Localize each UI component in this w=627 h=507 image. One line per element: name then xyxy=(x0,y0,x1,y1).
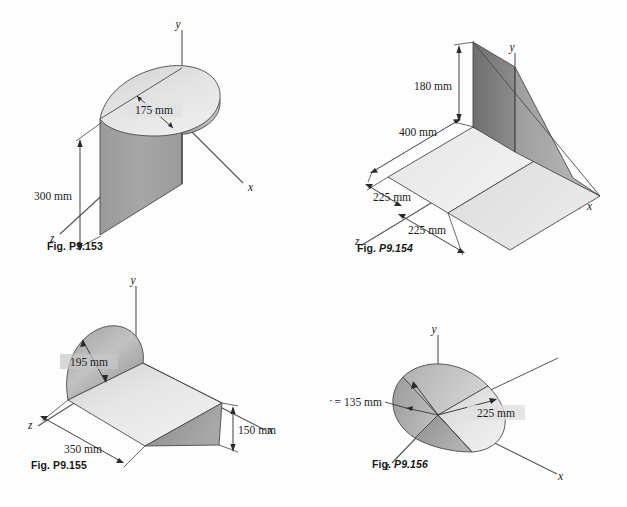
caption-word-153: Fig. xyxy=(47,240,66,252)
caption-word-154: Fig. xyxy=(357,242,376,254)
caption-number-154: P9.154 xyxy=(379,242,413,254)
caption-p9-153: Fig.P9.153 xyxy=(47,240,103,252)
caption-number-156: P9.156 xyxy=(394,458,428,470)
figure-p9-153-drawing: y x z 175 mm xyxy=(0,0,320,255)
caption-number-155: P9.155 xyxy=(53,459,87,471)
dim-225mm-far-label: 225 mm xyxy=(373,191,411,203)
dim-150mm-label: 150 mm xyxy=(238,424,276,436)
caption-word-155: Fig. xyxy=(31,459,50,471)
figure-p9-156-drawing: y x z r = 135 mm xyxy=(330,280,627,507)
y-axis-label: y xyxy=(508,41,515,54)
caption-number-153: P9.153 xyxy=(69,240,103,252)
dim-225mm-near-label: 225 mm xyxy=(408,224,446,236)
dim-r135-label: r = 135 mm xyxy=(330,396,382,408)
figure-p9-155: y x z 195 mm xyxy=(0,262,330,507)
x-axis-label: x xyxy=(557,470,564,482)
caption-word-156: Fig. xyxy=(372,458,391,470)
dim-300mm-group: 300 mm xyxy=(34,123,101,251)
caption-p9-155: Fig.P9.155 xyxy=(31,459,87,471)
figure-p9-156: y x z r = 135 mm xyxy=(330,280,627,507)
dim-300mm-ext-top xyxy=(76,123,101,141)
dim-350mm-ext-end xyxy=(124,446,145,467)
dim-180mm-ext-top xyxy=(454,42,474,45)
dim-195mm-label: 195 mm xyxy=(70,356,108,368)
dim-400mm-label: 400 mm xyxy=(399,126,437,138)
dim-150mm-ext-bottom xyxy=(219,445,238,452)
z-axis-label: z xyxy=(27,419,33,431)
dim-350mm-label: 350 mm xyxy=(64,443,102,455)
y-axis-label: y xyxy=(174,18,181,31)
caption-p9-156: Fig.P9.156 xyxy=(372,458,428,470)
caption-p9-154: Fig.P9.154 xyxy=(357,242,413,254)
dim-r135-value: = 135 mm xyxy=(332,396,382,408)
dim-180mm-group: 180 mm xyxy=(414,42,474,127)
figure-p9-153: y x z 175 mm xyxy=(0,0,320,255)
dim-175mm-label: 175 mm xyxy=(135,104,173,116)
y-axis-label: y xyxy=(129,274,136,287)
y-axis-label: y xyxy=(430,323,437,336)
figure-p9-154-drawing: y x z 180 mm xyxy=(330,0,627,255)
dim-350mm-arrowhead-end xyxy=(116,458,124,463)
dim-150mm-ext-top xyxy=(222,403,238,406)
dim-225mm-far-ext xyxy=(367,177,388,190)
dim-300mm-label: 300 mm xyxy=(34,190,72,202)
dim-350mm-ext-start xyxy=(42,400,68,421)
dim-225mm-cone-label: 225 mm xyxy=(477,407,515,419)
dim-180mm-label: 180 mm xyxy=(414,80,452,92)
x-axis-label: x xyxy=(247,181,254,193)
dim-300mm-arrowhead-top xyxy=(77,139,82,147)
figure-p9-154: y x z 180 mm xyxy=(330,0,627,255)
dim-150mm-arrowhead-top xyxy=(230,406,235,414)
dim-180mm-arrowhead-top xyxy=(456,45,461,53)
textbook-figure-page: y x z 175 mm xyxy=(0,0,627,507)
dim-400mm-ext-end xyxy=(368,172,372,182)
